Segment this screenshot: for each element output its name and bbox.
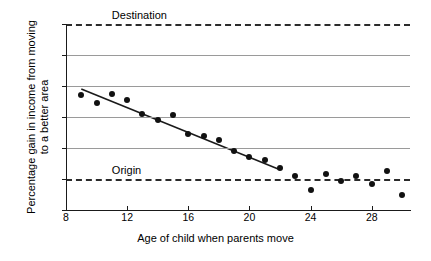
data-point: [139, 111, 145, 117]
y-axis-title-line1: Percentage gain in income from moving: [25, 17, 38, 217]
x-tick-label-28: 28: [366, 212, 378, 223]
gridline-y-40: [66, 117, 410, 118]
data-point: [277, 165, 283, 171]
y-tick-mark-60: [62, 86, 67, 87]
reference-label-destination: Destination: [112, 9, 167, 21]
data-point: [353, 173, 359, 179]
plot-area: [66, 24, 410, 210]
gridline-y-60: [66, 86, 410, 87]
y-axis-title: Percentage gain in income from moving to…: [25, 17, 51, 217]
y-axis-title-line2: to a better area: [38, 17, 51, 217]
data-point: [246, 154, 252, 160]
x-tick-mark-12: [127, 206, 128, 211]
x-axis-line: [66, 210, 411, 211]
data-point: [185, 131, 191, 137]
data-point: [262, 157, 268, 163]
reference-line-destination: [66, 24, 410, 26]
data-point: [308, 187, 314, 193]
y-tick-mark-100: [62, 24, 67, 25]
reference-label-origin: Origin: [112, 164, 141, 176]
data-point: [384, 168, 390, 174]
x-tick-label-12: 12: [121, 212, 133, 223]
data-point: [78, 92, 84, 98]
y-tick-mark-40: [62, 117, 67, 118]
data-point: [323, 171, 329, 177]
chart-container: −20020406080100 81216202428 DestinationO…: [0, 0, 431, 261]
x-tick-mark-24: [311, 206, 312, 211]
y-tick-mark-80: [62, 55, 67, 56]
data-point: [369, 181, 375, 187]
x-tick-label-20: 20: [244, 212, 256, 223]
x-tick-mark-16: [188, 206, 189, 211]
x-tick-mark-20: [249, 206, 250, 211]
data-point: [292, 173, 298, 179]
y-tick-mark-0: [62, 179, 67, 180]
x-tick-label-8: 8: [63, 212, 69, 223]
gridline-y-80: [66, 55, 410, 56]
x-tick-mark-28: [372, 206, 373, 211]
x-tick-mark-8: [66, 206, 67, 211]
data-point: [155, 117, 161, 123]
y-tick-mark-20: [62, 148, 67, 149]
reference-line-origin: [66, 179, 410, 181]
x-tick-label-24: 24: [305, 212, 317, 223]
data-point: [399, 192, 405, 198]
x-tick-label-16: 16: [182, 212, 194, 223]
data-point: [170, 112, 176, 118]
gridline-y-20: [66, 148, 410, 149]
data-point: [201, 133, 207, 139]
data-point: [338, 178, 344, 184]
data-point: [216, 137, 222, 143]
data-point: [124, 97, 130, 103]
x-axis-title: Age of child when parents move: [0, 232, 431, 244]
data-point: [231, 148, 237, 154]
data-point: [109, 91, 115, 97]
data-point: [94, 100, 100, 106]
